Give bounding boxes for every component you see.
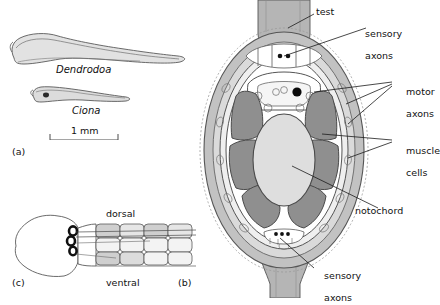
label-motor-axons: motor axons (394, 75, 435, 130)
label-muscle-cells-line2: cells (406, 167, 427, 178)
muscle-bands-dorsal (96, 224, 192, 252)
label-muscle-cells-line1: muscle (406, 145, 440, 156)
muscle-bands-ventral (96, 252, 192, 265)
panel-c-drawing (10, 208, 200, 288)
panel-label-c: (c) (12, 277, 25, 288)
ciona-larva (31, 87, 130, 102)
panel-c-label-dorsal: dorsal (106, 208, 135, 219)
label-muscle-cells: muscle cells (394, 134, 440, 189)
label-motor-axons-line1: motor (406, 86, 435, 97)
label-notochord: notochord (355, 205, 403, 216)
panel-c-label-ventral: ventral (106, 277, 140, 288)
species-label-dendrodoa: Dendrodoa (56, 64, 111, 75)
muscle-cell-left-dorsal (231, 91, 263, 140)
label-sensory-axons-bottom: sensory axons (312, 259, 361, 305)
scale-bar-label: 1 mm (71, 125, 99, 136)
label-test: test (316, 6, 334, 17)
label-motor-axons-line2: axons (406, 108, 434, 119)
label-sensory-axons-top: sensory axons (353, 17, 402, 72)
dendrodoa-larva (10, 34, 184, 64)
label-sensory-axons-bottom-line1: sensory (324, 270, 361, 281)
notochord (253, 114, 315, 206)
muscle-cell-right-dorsal (305, 91, 337, 140)
ciona-ocellus (43, 93, 49, 98)
panel-label-a: (a) (12, 146, 25, 157)
label-sensory-axons-bottom-line2: axons (324, 292, 352, 303)
species-label-ciona: Ciona (72, 105, 100, 116)
pigment-spot-ocellus (292, 87, 301, 96)
label-sensory-axons-top-line1: sensory (365, 28, 402, 39)
panel-label-b: (b) (178, 277, 191, 288)
label-sensory-axons-top-line2: axons (365, 50, 393, 61)
